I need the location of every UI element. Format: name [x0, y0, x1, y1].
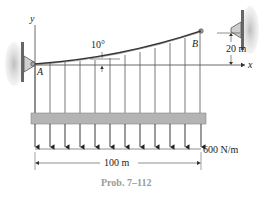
span-label: 100 m: [104, 157, 130, 168]
axis-x-label: x: [247, 59, 253, 70]
angle-label: 10°: [91, 39, 105, 50]
distributed-load-arrows: [35, 124, 201, 147]
coordinate-axes: y x: [29, 13, 253, 115]
hangers: [35, 32, 200, 113]
left-wall-support: [5, 42, 35, 86]
point-a-label: A: [36, 66, 44, 77]
height-label: 20 m: [226, 43, 247, 54]
figure-caption: Prob. 7–112: [101, 177, 151, 188]
cable-beam-diagram: y x 10° A B 20 m: [0, 0, 262, 199]
load-label: 600 N/m: [203, 144, 239, 155]
deck-beam: [31, 113, 206, 124]
axis-y-label: y: [29, 13, 35, 24]
span-dimension: 100 m: [35, 152, 201, 170]
point-b-label: B: [192, 38, 198, 49]
